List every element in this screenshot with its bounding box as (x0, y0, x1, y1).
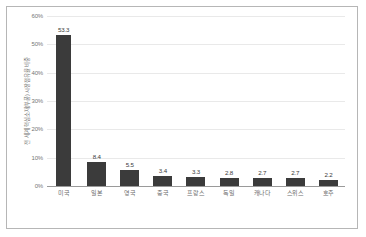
bar: 2.7 (286, 178, 305, 186)
x-axis-tick-label: 일본 (80, 188, 113, 197)
bar-slot: 5.5 (113, 16, 146, 186)
x-axis-tick-label: 스위스 (279, 188, 312, 197)
x-axis-tick-label: 캐나다 (246, 188, 279, 197)
bar-value-label: 2.7 (291, 169, 299, 176)
plot-area: 0%10%20%30%40%50%60% 53.38.45.53.43.32.8… (47, 16, 345, 186)
x-axis-tick-labels: 미국일본영국중국프랑스독일캐나다스위스호주 (47, 188, 345, 197)
bar-slot: 2.8 (213, 16, 246, 186)
y-axis-tick-label: 10% (32, 155, 43, 161)
x-axis-tick-label: 미국 (47, 188, 80, 197)
bar-value-label: 3.3 (192, 168, 200, 175)
x-axis-tick-label: 영국 (113, 188, 146, 197)
x-axis-line: 0% (47, 186, 345, 187)
bar-slot: 2.7 (279, 16, 312, 186)
x-axis-tick-label: 프랑스 (179, 188, 212, 197)
y-axis-tick-label: 50% (32, 41, 43, 47)
bar-value-label: 3.4 (159, 167, 167, 174)
y-axis-tick-label: 0% (35, 183, 43, 189)
bar: 3.4 (153, 176, 172, 186)
bar-slot: 2.2 (312, 16, 345, 186)
bar: 53.3 (56, 35, 71, 186)
bar-slot: 8.4 (80, 16, 113, 186)
chart-figure: 전 세계 핵심소재(부품) 시장점유율 비중 0%10%20%30%40%50%… (0, 0, 366, 237)
y-axis-tick-label: 20% (32, 126, 43, 132)
bar: 2.7 (253, 178, 272, 186)
bar-value-label: 2.8 (225, 169, 233, 176)
x-axis-tick-label: 중국 (146, 188, 179, 197)
x-axis-tick-label: 호주 (312, 188, 345, 197)
bar-slot: 3.3 (179, 16, 212, 186)
y-axis-tick-label: 40% (32, 70, 43, 76)
bar-value-label: 8.4 (93, 153, 101, 160)
bar-slot: 3.4 (146, 16, 179, 186)
bar-value-label: 5.5 (126, 161, 134, 168)
x-axis-tick-label: 독일 (213, 188, 246, 197)
y-axis-tick-label: 30% (32, 98, 43, 104)
bar: 8.4 (87, 162, 106, 186)
bar: 2.8 (220, 178, 239, 186)
bar-slot: 53.3 (47, 16, 80, 186)
bar-value-label: 2.2 (324, 171, 332, 178)
bar: 5.5 (120, 170, 139, 186)
bar-value-label: 2.7 (258, 169, 266, 176)
y-axis-title-text: 전 세계 핵심소재(부품) 시장점유율 비중 (23, 57, 31, 144)
bar: 3.3 (186, 177, 205, 186)
bar-slot: 2.7 (246, 16, 279, 186)
bar-series: 53.38.45.53.43.32.82.72.72.2 (47, 16, 345, 186)
bar: 2.2 (319, 180, 338, 186)
bar-value-label: 53.3 (58, 26, 69, 33)
y-axis-tick-label: 60% (32, 13, 43, 19)
